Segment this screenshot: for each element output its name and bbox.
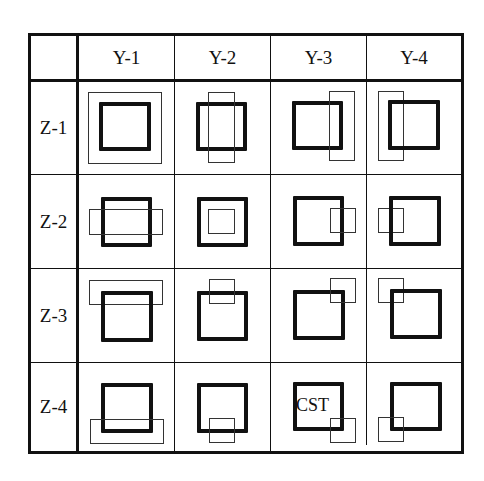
load-area-outline <box>378 417 404 442</box>
load-area-outline <box>209 279 235 304</box>
column-section-square <box>388 100 440 150</box>
load-area-outline <box>330 278 356 303</box>
load-area-outline <box>330 418 356 443</box>
column-divider-1 <box>174 33 175 454</box>
column-divider-2 <box>270 33 271 454</box>
column-header-y1: Y-1 <box>79 36 174 79</box>
load-area-outline <box>90 419 164 444</box>
row-header-z4: Z-4 <box>31 363 76 451</box>
load-area-outline <box>330 208 356 233</box>
label-column-divider <box>76 33 79 454</box>
column-section-square <box>389 196 441 246</box>
load-area-outline <box>208 92 235 163</box>
load-area-outline <box>329 91 355 161</box>
row-divider-3 <box>28 362 464 363</box>
column-header-y4: Y-4 <box>367 36 461 79</box>
column-section-square <box>101 291 153 342</box>
load-area-outline <box>89 209 163 235</box>
column-section-square <box>99 102 151 151</box>
row-header-z3: Z-3 <box>31 269 76 362</box>
column-section-square <box>390 289 442 339</box>
cst-annotation: CST <box>296 396 329 414</box>
row-divider-1 <box>28 174 464 175</box>
column-header-y2: Y-2 <box>175 36 270 79</box>
row-header-z2: Z-2 <box>31 175 76 268</box>
load-area-outline <box>208 209 235 234</box>
header-divider <box>28 79 464 82</box>
load-area-outline <box>209 418 235 443</box>
column-divider-3 <box>366 33 367 445</box>
row-header-z1: Z-1 <box>31 82 76 174</box>
row-divider-2 <box>28 268 464 269</box>
column-header-y3: Y-3 <box>271 36 366 79</box>
